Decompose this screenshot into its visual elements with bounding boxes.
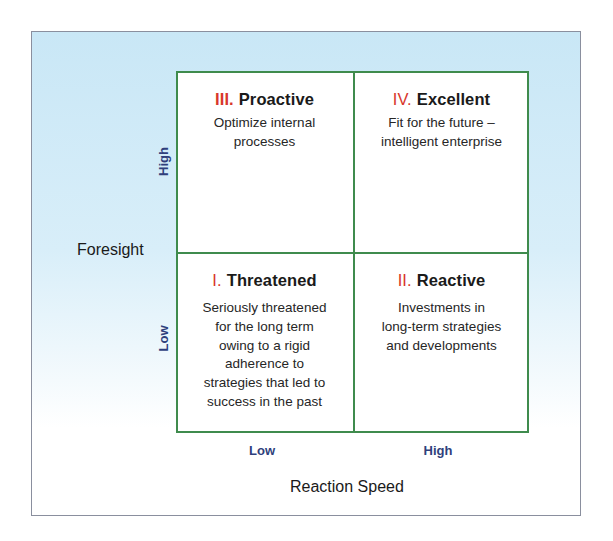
x-axis-low-label: Low [222,443,302,458]
y-axis-high-label: High [156,142,171,182]
quadrant-reactive: II.Reactive Investments in long-term str… [355,254,528,355]
quadrant-numeral: IV. [393,90,412,108]
description-line: adherence to [182,355,347,374]
description-line: Optimize internal [182,114,347,133]
quadrant-matrix: III.Proactive Optimize internal processe… [176,71,529,433]
quadrant-description: Seriously threatened for the long term o… [178,299,351,412]
quadrant-numeral: I. [212,271,221,289]
x-axis-title: Reaction Speed [290,478,404,496]
quadrant-name: Reactive [417,271,486,289]
x-axis-high-label: High [398,443,478,458]
quadrant-threatened: I.Threatened Seriously threatened for th… [178,254,351,412]
quadrant-excellent: IV.Excellent Fit for the future – intell… [355,73,528,152]
quadrant-description: Optimize internal processes [178,114,351,152]
quadrant-numeral: III. [215,90,234,108]
y-axis-low-label: Low [156,319,171,359]
quadrant-title: I.Threatened [178,271,351,290]
description-line: strategies that led to [182,374,347,393]
quadrant-name: Excellent [417,90,490,108]
description-line: and developments [359,337,524,356]
description-line: long-term strategies [359,318,524,337]
quadrant-title: III.Proactive [178,90,351,109]
quadrant-description: Fit for the future – intelligent enterpr… [355,114,528,152]
quadrant-numeral: II. [398,271,412,289]
quadrant-description: Investments in long-term strategies and … [355,299,528,355]
quadrant-title: IV.Excellent [355,90,528,109]
description-line: processes [182,133,347,152]
description-line: Seriously threatened [182,299,347,318]
quadrant-name: Proactive [239,90,314,108]
quadrant-name: Threatened [227,271,317,289]
description-line: owing to a rigid [182,337,347,356]
description-line: Investments in [359,299,524,318]
description-line: for the long term [182,318,347,337]
description-line: success in the past [182,393,347,412]
quadrant-title: II.Reactive [355,271,528,290]
description-line: Fit for the future – [359,114,524,133]
quadrant-proactive: III.Proactive Optimize internal processe… [178,73,351,152]
y-axis-title: Foresight [77,241,144,259]
description-line: intelligent enterprise [359,133,524,152]
